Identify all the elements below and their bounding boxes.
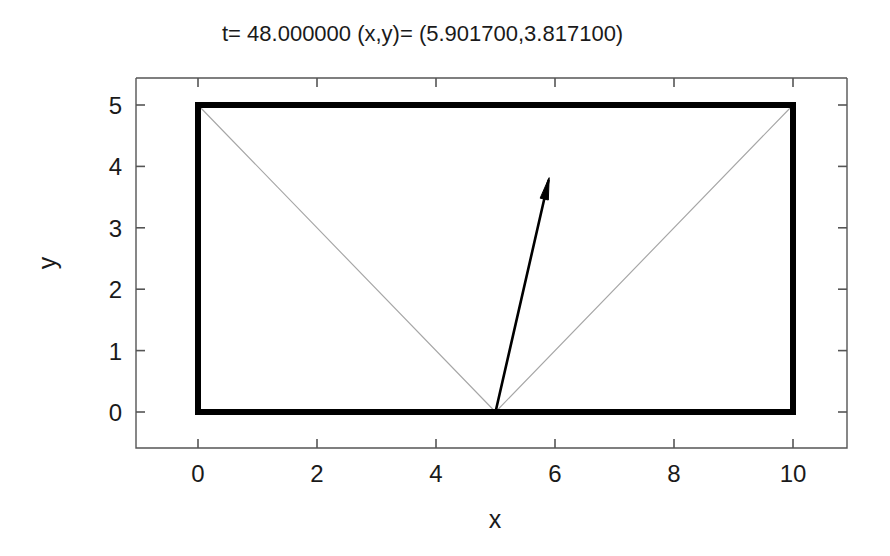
- y-tick-label: 0: [109, 399, 122, 426]
- y-tick-label: 2: [109, 276, 122, 303]
- x-tick-labels: 0246810: [191, 460, 806, 487]
- y-tick-labels: 012345: [109, 92, 122, 426]
- x-axis-title: x: [489, 505, 502, 533]
- velocity-arrow-head: [540, 178, 549, 200]
- billiard-plot-figure: t= 48.000000 (x,y)= (5.901700,3.817100) …: [0, 0, 890, 556]
- billiard-trajectory: [198, 105, 793, 412]
- velocity-arrow-group: [496, 178, 550, 412]
- page-title: t= 48.000000 (x,y)= (5.901700,3.817100): [222, 21, 623, 46]
- velocity-arrow-shaft: [496, 181, 549, 412]
- y-tick-label: 1: [109, 338, 122, 365]
- y-axis-title: y: [33, 256, 61, 269]
- x-tick-label: 4: [429, 460, 442, 487]
- y-tick-label: 3: [109, 215, 122, 242]
- x-tick-label: 0: [191, 460, 204, 487]
- plot-canvas: t= 48.000000 (x,y)= (5.901700,3.817100) …: [0, 0, 890, 556]
- x-tick-label: 8: [667, 460, 680, 487]
- x-tick-label: 10: [780, 460, 807, 487]
- tick-marks: [136, 78, 847, 448]
- billiard-box-boundary: [198, 105, 793, 412]
- axis-frame: [136, 78, 847, 448]
- x-tick-label: 6: [548, 460, 561, 487]
- y-tick-label: 5: [109, 92, 122, 119]
- y-tick-label: 4: [109, 153, 122, 180]
- x-tick-label: 2: [310, 460, 323, 487]
- axis-frame-path: [136, 78, 847, 448]
